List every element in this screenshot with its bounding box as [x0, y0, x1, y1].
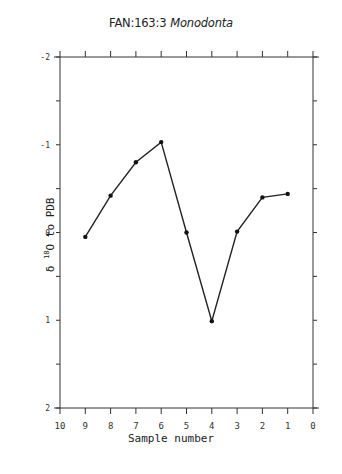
x-tick-label: 1 — [285, 421, 290, 431]
data-point — [159, 140, 163, 144]
data-point — [235, 229, 239, 233]
data-point — [83, 235, 87, 239]
y-tick-label: -1 — [40, 141, 50, 150]
data-point — [210, 319, 214, 323]
y-tick-label: -2 — [40, 53, 50, 62]
data-point — [184, 230, 188, 234]
x-tick-label: 5 — [184, 421, 189, 431]
data-point — [134, 160, 138, 164]
x-tick-label: 6 — [158, 421, 163, 431]
data-point — [108, 193, 112, 197]
y-axis-label: δ 18O to PDB — [43, 175, 57, 295]
y-tick-label: 1 — [45, 316, 50, 325]
x-tick-label: 2 — [260, 421, 265, 431]
data-point — [260, 195, 264, 199]
x-tick-label: 10 — [55, 421, 66, 431]
y-tick-label: 2 — [45, 404, 50, 413]
x-tick-label: 4 — [209, 421, 214, 431]
x-tick-label: 0 — [310, 421, 315, 431]
data-point — [286, 192, 290, 196]
x-tick-label: 3 — [234, 421, 239, 431]
x-tick-label: 9 — [83, 421, 88, 431]
x-tick-label: 8 — [108, 421, 113, 431]
x-tick-label: 7 — [133, 421, 138, 431]
x-axis-label: Sample number — [0, 432, 342, 445]
